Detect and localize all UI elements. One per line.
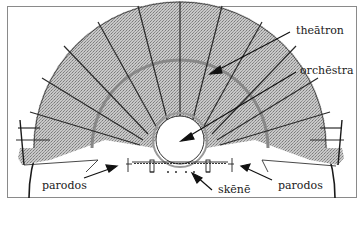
label-parodos-right: parodos bbox=[278, 180, 323, 191]
label-skene: skēnē bbox=[218, 184, 250, 195]
label-orchestra: orchēstra bbox=[300, 65, 354, 76]
label-theatron: theātron bbox=[296, 25, 344, 36]
parodos-right-arrow bbox=[246, 168, 272, 180]
orchestra-circle bbox=[156, 116, 204, 164]
label-parodos-left: parodos bbox=[42, 180, 87, 191]
